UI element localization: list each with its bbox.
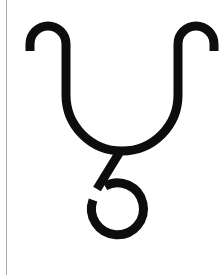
glyph-canvas xyxy=(0,0,221,275)
hooked-u-with-loop-tail-glyph xyxy=(30,26,214,235)
u-body-with-hooks-stroke xyxy=(30,26,214,151)
open-loop-stroke xyxy=(91,183,143,235)
scanned-page: U-shaped stroke with outward curling hoo… xyxy=(0,0,221,275)
